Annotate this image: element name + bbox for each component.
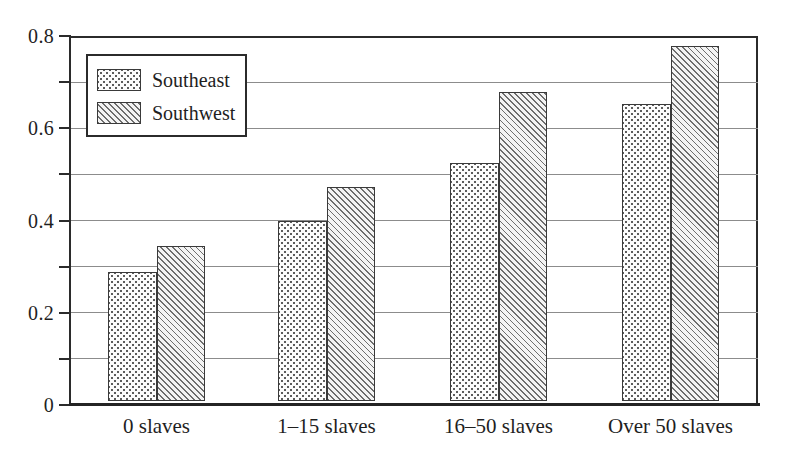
legend-label-southwest: Southwest: [152, 103, 235, 123]
bar-southwest-2: [499, 92, 548, 401]
bar-southwest-1: [327, 187, 376, 401]
bar-southeast-1: [278, 221, 327, 401]
y-axis-label: 0: [44, 395, 54, 415]
legend-label-southeast: Southeast: [152, 70, 230, 90]
x-axis-label: 1–15 slaves: [227, 414, 427, 438]
bar-southeast-0: [108, 272, 157, 401]
legend-swatch-southwest-icon: [97, 102, 141, 124]
legend-item-southeast: Southeast: [97, 63, 245, 96]
x-axis-label: 16–50 slaves: [399, 414, 599, 438]
bar-southeast-3: [622, 104, 671, 402]
bar-southeast-2: [450, 163, 499, 401]
legend-swatch-southeast-icon: [97, 69, 141, 91]
x-axis-label: Over 50 slaves: [571, 414, 771, 438]
bar-southwest-0: [157, 246, 206, 401]
y-axis-label: 0.2: [28, 303, 54, 323]
bar-chart-figure: 0.80.60.40.20 0 slaves1–15 slaves16–50 s…: [0, 0, 791, 455]
x-axis-line: [69, 403, 760, 406]
y-axis-label: 0.8: [28, 26, 54, 46]
y-axis-label: 0.6: [28, 118, 54, 138]
y-axis-label: 0.4: [28, 211, 54, 231]
y-axis-line: [69, 36, 71, 405]
legend-item-southwest: Southwest: [97, 96, 245, 129]
bar-southwest-3: [671, 46, 720, 401]
legend: Southeast Southwest: [86, 54, 247, 137]
